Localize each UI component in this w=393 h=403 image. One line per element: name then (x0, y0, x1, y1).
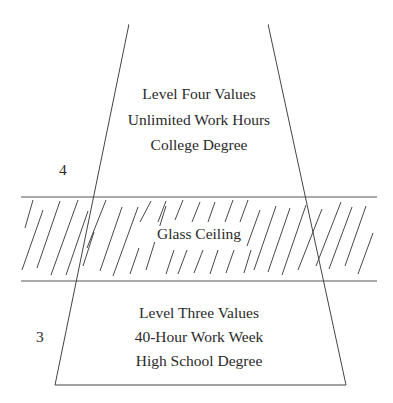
lower-level-title: Level Three Values (139, 305, 259, 321)
upper-level-education: College Degree (151, 137, 248, 153)
upper-level-title: Level Four Values (142, 86, 255, 102)
glass-ceiling-label: Glass Ceiling (154, 226, 244, 242)
upper-level-hours: Unlimited Work Hours (128, 112, 270, 128)
lower-level-education: High School Degree (136, 353, 263, 369)
lower-level-hours: 40-Hour Work Week (135, 329, 264, 345)
upper-level-number: 4 (59, 162, 67, 178)
glass-ceiling-diagram: Level Four Values Unlimited Work Hours C… (0, 0, 393, 403)
lower-level-number: 3 (36, 329, 44, 345)
